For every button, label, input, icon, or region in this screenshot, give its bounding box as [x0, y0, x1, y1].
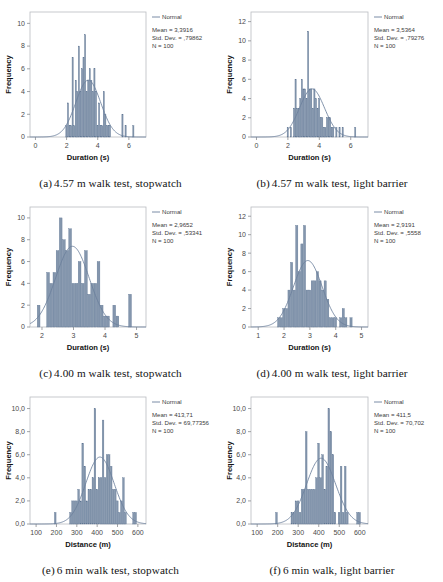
histogram-bar	[54, 512, 56, 524]
histogram-bar	[94, 283, 97, 327]
legend-label-normal: Normal	[162, 208, 182, 215]
histogram-bar	[103, 92, 104, 137]
x-tick-label: 3	[308, 332, 312, 339]
histogram-bar	[97, 262, 100, 327]
histogram-bar	[285, 309, 287, 327]
y-axis-title: Frequency	[225, 247, 234, 286]
y-tick-label: 6,0	[236, 451, 246, 458]
y-tick-label: 8	[21, 42, 25, 49]
histogram-bar	[97, 126, 98, 137]
stat-mean: Mean = 413,71	[152, 411, 193, 418]
histogram-bar	[106, 126, 107, 137]
panel-b-caption-index: (b)	[256, 177, 269, 189]
histogram-bar	[112, 489, 114, 524]
x-axis: 100200300400500600	[251, 524, 365, 536]
histogram-bar	[323, 127, 324, 137]
histogram-bar	[301, 79, 302, 137]
y-tick-label: 0,0	[236, 520, 246, 527]
histogram-bar	[62, 240, 65, 327]
histogram-bar	[122, 114, 123, 137]
panel-f-caption-text: 6 min walk, light barrier	[283, 564, 395, 576]
statistics-block: Mean = 3,5364Std. Dev. = ,79276N = 100	[374, 26, 425, 49]
histogram-bar	[78, 262, 81, 327]
y-tick-label: 10	[17, 214, 25, 221]
histogram-bar	[290, 127, 291, 137]
panel-b-caption: (b)4.57 m walk test, light barrier	[221, 177, 443, 189]
panel-d-caption-text: 4.00 m walk test, light barrier	[272, 367, 408, 379]
histogram-bar	[105, 114, 106, 137]
stat-mean: Mean = 2,9652	[152, 221, 193, 228]
histogram-bar	[82, 443, 84, 524]
histogram-bar	[70, 512, 72, 524]
histogram-bar	[316, 478, 318, 524]
histogram-bar	[119, 512, 121, 524]
histogram-bar	[91, 80, 92, 137]
x-tick-label: 4	[317, 142, 321, 149]
histogram-bar	[328, 118, 329, 137]
histogram-bar	[133, 126, 134, 137]
histogram-bar	[85, 251, 88, 327]
histogram-bar	[326, 466, 328, 524]
panel-a-caption-text: 4.57 m walk test, stopwatch	[54, 177, 182, 189]
histogram-bar	[350, 318, 352, 327]
histogram-bar	[125, 512, 127, 524]
histogram-bar	[92, 92, 93, 137]
histogram-bar	[305, 432, 307, 524]
histogram-bar	[94, 409, 96, 524]
panel-e-caption: (e)6 min walk test, stopwatch	[0, 564, 221, 576]
legend: Normal	[374, 13, 404, 20]
y-axis: 0246810	[17, 20, 30, 141]
panel-d-caption: (d)4.00 m walk test, light barrier	[221, 367, 443, 379]
histogram-bar	[114, 489, 116, 524]
panel-d-plot: 02468101212345FrequencyDuration (s)Norma…	[221, 195, 443, 355]
y-tick-label: 2,0	[236, 497, 246, 504]
stat-mean: Mean = 2,9191	[374, 221, 415, 228]
x-tick-label: 300	[71, 529, 83, 536]
histogram-bar	[102, 126, 103, 137]
histogram-bar	[306, 290, 308, 327]
y-tick-label: 10,0	[11, 405, 25, 412]
histogram-bar	[80, 92, 81, 137]
y-tick-label: 10	[238, 37, 246, 44]
histogram-bar	[109, 126, 110, 137]
stat-n: N = 100	[152, 42, 174, 49]
y-axis-title: Frequency	[225, 441, 234, 480]
histogram-bar	[315, 99, 316, 137]
y-axis-title: Frequency	[225, 55, 234, 94]
legend: Normal	[374, 398, 404, 405]
histogram-bar	[346, 512, 348, 524]
x-axis: 2345	[40, 327, 139, 339]
histogram-bar	[295, 79, 296, 137]
statistics-block: Mean = 411,5Std. Dev. = 70,702N = 100	[374, 411, 425, 434]
panel-b: 0246810120246FrequencyDuration (s)Normal…	[221, 0, 443, 195]
histogram-bar	[322, 455, 324, 524]
y-tick-label: 6	[242, 268, 246, 275]
statistics-block: Mean = 413,71Std. Dev. = 69,77356N = 100	[152, 411, 210, 434]
x-axis: 0246	[33, 137, 130, 149]
histogram-bar	[311, 281, 313, 327]
legend-label-normal: Normal	[384, 208, 404, 215]
histogram-bar	[309, 89, 310, 137]
panel-f-plot: 0,02,04,06,08,010,0100200300400500600Fre…	[221, 385, 443, 552]
panel-a-caption: (a)4.57 m walk test, stopwatch	[0, 177, 221, 189]
x-tick-label: 600	[354, 529, 366, 536]
histogram-chart-d: 02468101212345FrequencyDuration (s)Norma…	[221, 195, 443, 355]
x-tick-label: 100	[251, 529, 263, 536]
histogram-bars	[276, 409, 361, 524]
stat-mean: Mean = 3,5364	[374, 26, 415, 33]
histogram-bar	[303, 225, 305, 327]
panel-a: 02468100246FrequencyDuration (s)NormalMe…	[0, 0, 221, 195]
histogram-bar	[329, 318, 331, 327]
histogram-bar	[303, 89, 304, 137]
histogram-bar	[74, 126, 75, 137]
histogram-bar	[330, 432, 332, 524]
histogram-chart-b: 0246810120246FrequencyDuration (s)Normal…	[221, 0, 443, 165]
y-tick-label: 10	[238, 231, 246, 238]
histogram-bar	[103, 316, 106, 327]
y-tick-label: 12	[238, 18, 246, 25]
histogram-bar	[81, 283, 84, 327]
stat-std-dev: Std. Dev. = ,79862	[152, 34, 203, 41]
histogram-bars	[278, 225, 353, 327]
histogram-bar	[123, 478, 125, 524]
y-axis-title: Frequency	[4, 55, 13, 94]
